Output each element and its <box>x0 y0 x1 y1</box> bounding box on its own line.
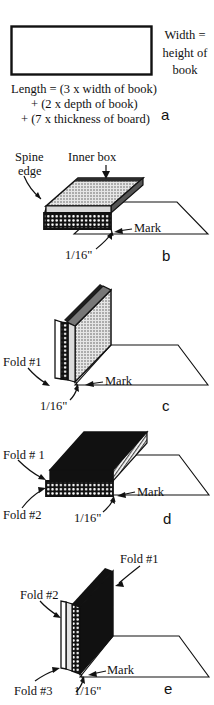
panel-a-width-label-line2: height of <box>155 46 214 60</box>
panel-b-graphics <box>24 165 208 249</box>
panel-b-measure-label: 1/16" <box>65 248 92 262</box>
panel-b-spine-edge-line1: Spine <box>15 150 43 164</box>
panel-e-mark-label: Mark <box>107 663 134 677</box>
panel-d-graphics <box>18 432 209 512</box>
figure-canvas: Width = height of book Length = (3 x wid… <box>0 0 214 705</box>
panel-d-fold2-label: Fold #2 <box>3 508 42 522</box>
panel-e-measure-label: 1/16" <box>74 684 101 698</box>
panel-d-fold1-label: Fold # 1 <box>3 448 45 462</box>
panel-b-inner-box-label: Inner box <box>68 150 116 164</box>
panel-d-mark-label: Mark <box>137 485 164 499</box>
panel-e-fold3-label: Fold #3 <box>14 684 53 698</box>
panel-e-letter: e <box>164 681 172 698</box>
panel-c-letter: c <box>162 398 170 415</box>
panel-a-formula-line3: + (7 x thickness of board) <box>21 112 150 126</box>
panel-b-letter: b <box>162 248 170 265</box>
panel-b-spine-edge-line2: edge <box>18 164 42 178</box>
panel-c-mark-label: Mark <box>105 374 132 388</box>
panel-d-letter: d <box>163 511 171 528</box>
panel-a-width-label-line1: Width = <box>157 28 213 42</box>
panel-a-formula-line1: Length = (3 x width of book) <box>11 82 157 96</box>
panel-c-measure-label: 1/16" <box>40 399 67 413</box>
panel-e-fold2-label: Fold #2 <box>20 588 59 602</box>
panel-e-fold1-label: Fold #1 <box>120 552 159 566</box>
panel-d-measure-label: 1/16" <box>74 511 101 525</box>
panel-a-rectangle <box>12 27 152 75</box>
panel-b-mark-label: Mark <box>134 221 161 235</box>
panel-c-fold1-label: Fold #1 <box>3 355 42 369</box>
panel-a-width-label-line3: book <box>157 63 213 77</box>
panel-a-formula-line2: + (2 x depth of book) <box>31 97 138 111</box>
panel-a-letter: a <box>161 107 169 124</box>
